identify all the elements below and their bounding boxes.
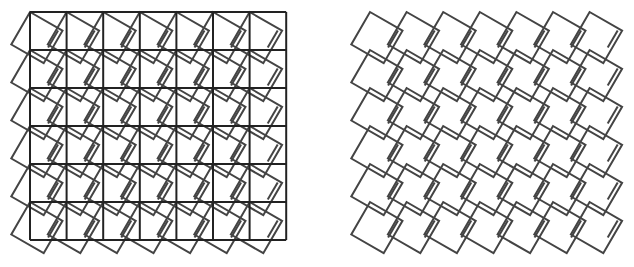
tiling-diagram: [0, 0, 634, 267]
left-panel-grid-with-rotated-squares: [11, 12, 286, 253]
right-panel-rotated-squares: [351, 12, 622, 253]
